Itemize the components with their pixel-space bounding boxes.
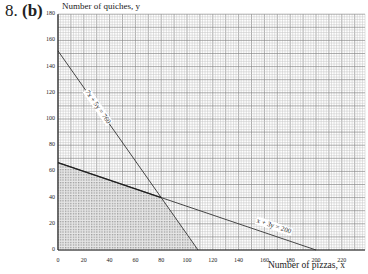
y-tick-label: 100 (37, 115, 55, 121)
x-tick-label: 100 (177, 257, 197, 263)
shaded-feasible-region (58, 163, 198, 250)
x-tick-label: 20 (74, 257, 94, 263)
y-tick-label: 140 (37, 63, 55, 69)
x-tick-label: 180 (280, 257, 300, 263)
x-tick-label: 160 (254, 257, 274, 263)
y-tick-label: 20 (37, 220, 55, 226)
y-tick-label: 40 (37, 194, 55, 200)
x-tick-label: 120 (203, 257, 223, 263)
y-tick-label: 60 (37, 167, 55, 173)
x-tick-label: 220 (332, 257, 352, 263)
x-tick-label: 200 (306, 257, 326, 263)
y-tick-label: 120 (37, 89, 55, 95)
x-tick-label: 140 (229, 257, 249, 263)
x-tick-label: 60 (125, 257, 145, 263)
x-tick-label: 0 (48, 257, 68, 263)
x-tick-label: 40 (100, 257, 120, 263)
y-tick-label: 0 (37, 246, 55, 252)
y-tick-label: 80 (37, 141, 55, 147)
y-tick-label: 180 (37, 10, 55, 16)
y-tick-label: 160 (37, 36, 55, 42)
chart-plot-area (0, 0, 368, 274)
x-tick-label: 80 (151, 257, 171, 263)
